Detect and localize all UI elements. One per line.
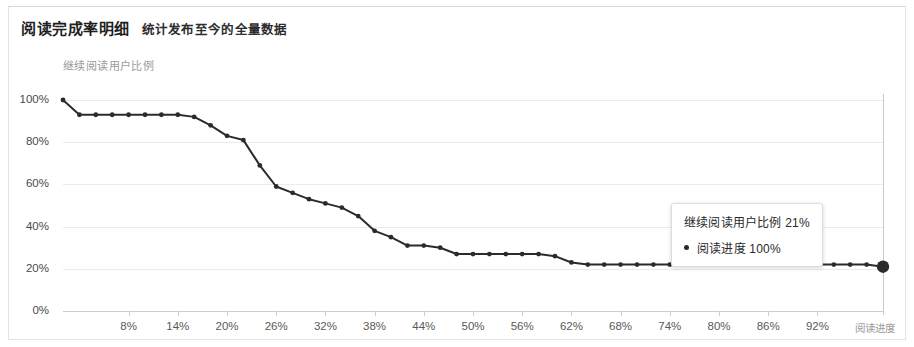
chart-subtitle: 统计发布至今的全量数据 xyxy=(142,19,288,38)
chart-card: 阅读完成率明细 统计发布至今的全量数据 继续阅读用户比例 xyxy=(8,6,906,340)
tooltip-row-label: 阅读进度 100% xyxy=(697,239,781,256)
tooltip-header: 继续阅读用户比例 21% xyxy=(684,213,810,230)
bullet-dot-icon xyxy=(684,245,689,250)
tooltip-row: 阅读进度 100% xyxy=(684,239,810,256)
chart-header: 阅读完成率明细 统计发布至今的全量数据 xyxy=(21,17,288,38)
chart-tooltip: 继续阅读用户比例 21% 阅读进度 100% xyxy=(671,203,823,267)
y-axis-caption: 继续阅读用户比例 xyxy=(63,57,154,73)
page-title: 阅读完成率明细 xyxy=(21,17,130,38)
